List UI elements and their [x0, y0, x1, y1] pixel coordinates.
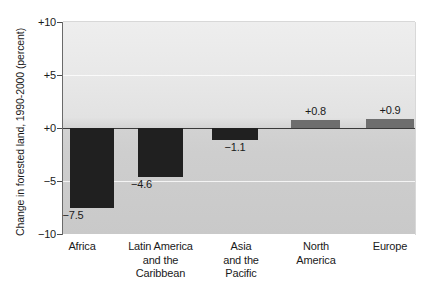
category-label-latin-america-line3: Caribbean: [113, 267, 208, 281]
category-label-asia-and-the-pacific: Asia and the Pacific: [210, 240, 272, 281]
category-label-africa-line1: Africa: [52, 240, 112, 254]
y-tick-label-plus5: +5: [22, 70, 56, 81]
bar-europe[interactable]: [366, 119, 414, 129]
plot-area: [63, 22, 415, 234]
plot-right-frame: [415, 22, 416, 235]
category-label-europe: Europe: [356, 240, 424, 254]
value-label-latin-america-and-the-caribbean: −4.6: [119, 178, 164, 190]
value-label-europe: +0.9: [366, 104, 414, 116]
category-label-asia-line3: Pacific: [210, 267, 272, 281]
y-tick-label-plus10: +10: [22, 17, 56, 28]
value-label-asia-and-the-pacific: −1.1: [212, 141, 258, 153]
y-axis-tick-labels: +10 +5 +0 −5 −10: [22, 0, 56, 288]
category-label-latin-america-line1: Latin America: [113, 240, 208, 254]
value-label-africa: −7.5: [51, 209, 95, 221]
y-tick-label-minus10: −10: [22, 229, 56, 240]
category-label-africa: Africa: [52, 240, 112, 254]
chart-figure: Change in forested land, 1990-2000 (perc…: [0, 0, 434, 288]
category-label-north-america: North America: [281, 240, 351, 267]
category-label-north-america-line1: North: [281, 240, 351, 254]
gridline-plus5: [63, 75, 415, 76]
category-label-europe-line1: Europe: [356, 240, 424, 254]
category-label-asia-line2: and the: [210, 254, 272, 268]
bar-africa[interactable]: [70, 128, 114, 208]
bar-latin-america-and-the-caribbean[interactable]: [138, 128, 183, 177]
value-label-north-america: +0.8: [291, 105, 340, 117]
y-tick-label-zero: +0: [22, 123, 56, 134]
gridline-minus5: [63, 181, 415, 182]
category-label-asia-line1: Asia: [210, 240, 272, 254]
category-label-north-america-line2: America: [281, 254, 351, 268]
category-label-latin-america-and-the-caribbean: Latin America and the Caribbean: [113, 240, 208, 281]
y-tick-label-minus5: −5: [22, 176, 56, 187]
bar-asia-and-the-pacific[interactable]: [212, 128, 258, 140]
category-label-latin-america-line2: and the: [113, 254, 208, 268]
bar-north-america[interactable]: [291, 120, 340, 129]
